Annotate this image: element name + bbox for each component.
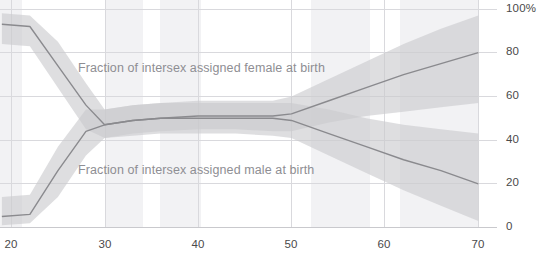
y-tick-label-100pct: 100% xyxy=(506,2,536,14)
y-tick-label-20: 20 xyxy=(506,176,519,188)
x-tick-label-40: 40 xyxy=(191,238,204,250)
series-annotation-female: Fraction of intersex assigned female at … xyxy=(78,61,325,75)
series-annotation-male: Fraction of intersex assigned male at bi… xyxy=(78,163,314,177)
y-tick-label-0: 0 xyxy=(506,220,513,232)
x-tick-label-70: 70 xyxy=(471,238,484,250)
x-tick-label-60: 60 xyxy=(377,238,390,250)
x-tick-label-50: 50 xyxy=(284,238,297,250)
y-tick-label-60: 60 xyxy=(506,89,519,101)
x-tick-label-20: 20 xyxy=(4,238,17,250)
line-chart-plot xyxy=(0,0,541,262)
chart-container: 203040506070 100%806040200 Fraction of i… xyxy=(0,0,541,262)
y-tick-label-80: 80 xyxy=(506,45,519,57)
y-tick-label-40: 40 xyxy=(506,133,519,145)
x-tick-label-30: 30 xyxy=(98,238,111,250)
